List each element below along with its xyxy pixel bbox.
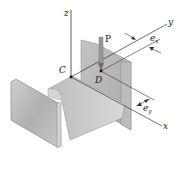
point-d xyxy=(100,70,103,73)
ex-label: ex xyxy=(150,33,159,44)
point-c-label: C xyxy=(59,65,66,75)
i-beam-diagram: z y x P C D ex ey xyxy=(0,0,181,177)
load-p-label: P xyxy=(105,34,111,44)
z-axis-label: z xyxy=(63,8,69,18)
point-c xyxy=(70,76,73,79)
point-d-label: D xyxy=(94,75,102,85)
x-axis-label: x xyxy=(163,121,168,131)
y-axis-label: y xyxy=(167,17,174,27)
ey-label: ey xyxy=(143,103,152,115)
